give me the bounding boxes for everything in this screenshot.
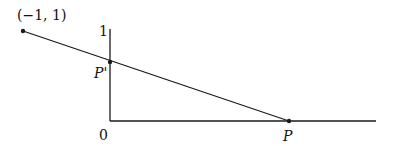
projection-line xyxy=(23,31,289,121)
point-p-dot xyxy=(287,119,291,123)
y-tick-label: 1 xyxy=(99,24,108,38)
point-a-dot xyxy=(21,29,25,33)
point-p-prime-dot xyxy=(108,60,112,64)
p-prime-label: P' xyxy=(94,66,107,80)
point-a-label: (−1, 1) xyxy=(17,8,66,22)
p-label: P xyxy=(283,129,292,143)
origin-label: 0 xyxy=(99,128,108,142)
